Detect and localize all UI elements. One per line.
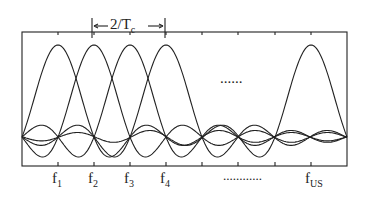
ellipsis-mid: ......	[220, 70, 243, 87]
subcarrier-label-4: f4	[160, 170, 170, 189]
spacing-label: 2/Tc	[110, 16, 135, 35]
subcarrier-label-2: f2	[88, 170, 98, 189]
ellipsis-axis: ............	[223, 168, 262, 184]
sinc-curves	[22, 45, 347, 157]
subcarrier-label-us: fUS	[305, 170, 323, 189]
subcarrier-label-3: f3	[124, 170, 134, 189]
subcarrier-label-1: f1	[52, 170, 62, 189]
